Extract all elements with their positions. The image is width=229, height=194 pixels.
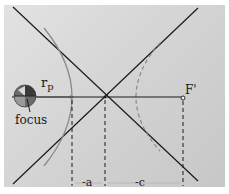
asymptote-line-1 bbox=[13, 7, 198, 181]
second-focus-label: F' bbox=[185, 84, 197, 96]
rp-label: rp bbox=[41, 76, 54, 92]
focus-label: focus bbox=[15, 114, 47, 126]
planet-focus-icon bbox=[14, 85, 36, 107]
hyperbola-diagram bbox=[0, 0, 229, 194]
semi-major-axis-label: -a bbox=[82, 177, 92, 188]
center-point bbox=[104, 96, 107, 99]
focal-distance-label: -c bbox=[135, 177, 145, 188]
rp-label-subscript: p bbox=[47, 81, 53, 92]
